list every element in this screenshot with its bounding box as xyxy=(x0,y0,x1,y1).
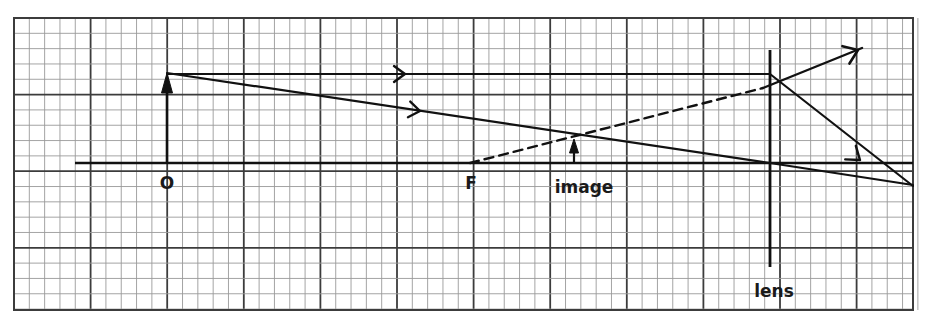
lens-label: lens xyxy=(754,281,794,301)
image-label: image xyxy=(555,177,614,197)
object-label: O xyxy=(160,173,174,193)
focus-label: F xyxy=(465,173,477,193)
ray-diagram-figure: OFimagelens xyxy=(0,0,928,323)
optics-diagram-canvas: OFimagelens xyxy=(0,0,928,323)
